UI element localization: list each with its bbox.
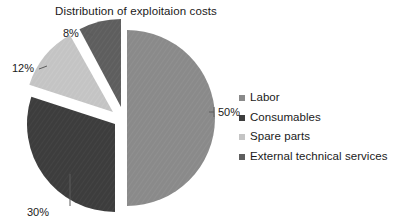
pie-chart-svg: 50% 30% 12% 8%	[0, 0, 240, 223]
pie-slice-labor[interactable]	[127, 30, 215, 206]
pie-label-8: 8%	[63, 27, 79, 39]
legend-swatch-icon-consumables	[239, 115, 245, 121]
legend-swatch-icon-labor	[239, 95, 245, 101]
pie-label-50: 50%	[218, 106, 240, 118]
legend-swatch-icon-spare-parts	[239, 134, 245, 140]
legend-label-labor: Labor	[250, 92, 280, 104]
legend-item-spare-parts[interactable]: Spare parts	[239, 127, 393, 147]
pie-label-12: 12%	[12, 62, 34, 74]
legend-label-spare-parts: Spare parts	[250, 131, 310, 143]
chart-legend: Labor Consumables Spare parts External t…	[239, 88, 393, 166]
legend-swatch-icon-external-technical-services	[239, 154, 245, 160]
chart-screenshot: Distribution of exploitaion costs	[0, 0, 393, 223]
pie-chart-plot: 50% 30% 12% 8%	[0, 0, 240, 223]
legend-item-external-technical-services[interactable]: External technical services	[239, 147, 393, 167]
legend-item-labor[interactable]: Labor	[239, 88, 393, 108]
pie-slice-consumables[interactable]	[27, 97, 115, 212]
legend-label-external-technical-services: External technical services	[250, 151, 388, 163]
legend-label-consumables: Consumables	[250, 112, 321, 124]
legend-item-consumables[interactable]: Consumables	[239, 108, 393, 128]
pie-label-30: 30%	[27, 206, 49, 218]
